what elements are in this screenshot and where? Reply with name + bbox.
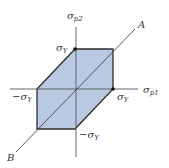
line-b-label: B — [6, 152, 14, 163]
yield-surface-diagram: σp2 σp1 σY σY −σY −σY A B — [0, 0, 169, 168]
sigma-p1-label: σp1 — [143, 84, 159, 97]
diagram-canvas: σp2 σp1 σY σY −σY −σY A B — [0, 0, 169, 168]
right-yield-point — [111, 87, 115, 91]
line-a-label: A — [137, 19, 145, 30]
sigma-p2-label: σp2 — [67, 10, 83, 23]
top-yield-label: σY — [56, 42, 69, 55]
left-yield-label: −σY — [12, 91, 33, 104]
top-yield-point — [73, 47, 77, 51]
right-yield-label: σY — [117, 91, 130, 104]
bottom-yield-label: −σY — [79, 129, 100, 142]
